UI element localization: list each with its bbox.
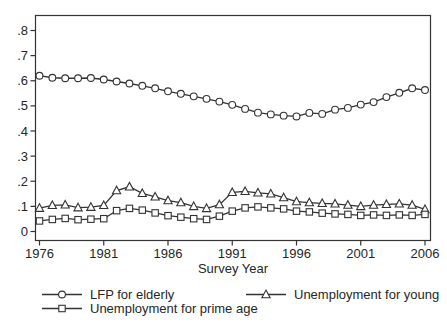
circle-marker: [345, 104, 352, 111]
square-marker: [113, 207, 119, 213]
square-marker: [358, 212, 364, 218]
circle-marker: [152, 85, 159, 92]
square-marker: [216, 213, 222, 219]
square-marker: [178, 214, 184, 220]
square-marker: [191, 215, 197, 221]
triangle-marker: [61, 200, 69, 208]
circle-marker: [36, 72, 43, 79]
square-marker: [268, 205, 274, 211]
square-marker: [332, 211, 338, 217]
legend-item: [42, 291, 82, 298]
legend: LFP for elderly Unemployment for young U…: [42, 287, 439, 316]
circle-marker: [216, 98, 223, 105]
legend-item: [42, 305, 82, 311]
y-tick-label: .3: [17, 149, 28, 164]
circle-marker: [203, 95, 210, 102]
circle-marker: [383, 94, 390, 101]
circle-marker: [332, 106, 339, 113]
square-marker: [62, 215, 68, 221]
circle-marker: [267, 111, 274, 118]
square-marker: [255, 204, 261, 210]
legend-label-unemployment-for-prime-age: Unemployment for prime age: [90, 301, 258, 316]
y-tick-label: .2: [17, 174, 28, 189]
y-tick-label: .6: [17, 73, 28, 88]
x-tick-label: 1991: [218, 246, 247, 261]
square-marker: [319, 210, 325, 216]
square-marker: [75, 216, 81, 222]
square-marker: [126, 205, 132, 211]
circle-marker: [88, 75, 95, 82]
circle-marker: [75, 75, 82, 82]
circle-marker: [113, 78, 120, 85]
y-tick-label: .5: [17, 98, 28, 113]
circle-marker: [100, 76, 107, 83]
circle-marker: [409, 85, 416, 92]
square-marker: [101, 215, 107, 221]
square-marker: [165, 212, 171, 218]
circle-marker: [126, 80, 133, 87]
square-marker: [229, 208, 235, 214]
legend-label-unemployment-for-young: Unemployment for young: [294, 287, 439, 302]
triangle-marker: [138, 189, 146, 197]
square-marker: [293, 208, 299, 214]
circle-marker: [357, 101, 364, 108]
x-tick-label: 2001: [346, 246, 375, 261]
circle-marker: [255, 109, 262, 116]
x-tick-label: 1981: [89, 246, 118, 261]
square-marker: [139, 207, 145, 213]
square-marker: [36, 218, 42, 224]
y-tick-label: .7: [17, 48, 28, 63]
circle-marker: [62, 75, 69, 82]
circle-marker: [177, 90, 184, 97]
triangle-marker: [125, 182, 133, 190]
y-tick-label: .4: [17, 124, 28, 139]
x-tick-label: 1976: [25, 246, 54, 261]
y-tick-label: .8: [17, 23, 28, 38]
y-tick-label: 0: [21, 224, 28, 239]
circle-marker: [370, 99, 377, 106]
square-marker: [280, 206, 286, 212]
x-axis: 1976198119861991199620012006: [25, 241, 439, 262]
square-marker: [203, 216, 209, 222]
circle-marker: [422, 87, 429, 94]
circle-marker: [280, 112, 287, 119]
square-marker: [49, 216, 55, 222]
circle-marker: [139, 82, 146, 89]
series-layer: [35, 72, 429, 224]
legend-square-marker: [59, 305, 65, 311]
x-axis-title: Survey Year: [198, 261, 269, 276]
circle-marker: [319, 111, 326, 118]
circle-marker: [293, 113, 300, 120]
y-axis: 0.1.2.3.4.5.6.7.8: [17, 23, 35, 239]
square-marker: [383, 212, 389, 218]
square-marker: [242, 205, 248, 211]
series-line-lfp-for-elderly: [40, 76, 426, 117]
square-marker: [152, 210, 158, 216]
square-marker: [345, 211, 351, 217]
chart-figure: 0.1.2.3.4.5.6.7.8 1976198119861991199620…: [0, 0, 447, 330]
circle-marker: [242, 105, 249, 112]
square-marker: [409, 212, 415, 218]
legend-label-lfp-for-elderly: LFP for elderly: [90, 287, 175, 302]
square-marker: [422, 211, 428, 217]
circle-marker: [396, 89, 403, 96]
square-marker: [88, 216, 94, 222]
legend-item: [246, 290, 286, 298]
circle-marker: [229, 101, 236, 108]
square-marker: [370, 212, 376, 218]
circle-marker: [306, 110, 313, 117]
series-lfp-for-elderly: [36, 72, 428, 120]
circle-marker: [165, 88, 172, 95]
triangle-marker: [241, 187, 249, 195]
square-marker: [396, 212, 402, 218]
chart-svg: 0.1.2.3.4.5.6.7.8 1976198119861991199620…: [0, 0, 447, 330]
x-tick-label: 2006: [411, 246, 440, 261]
circle-marker: [190, 93, 197, 100]
x-tick-label: 1996: [282, 246, 311, 261]
x-tick-label: 1986: [154, 246, 183, 261]
y-tick-label: .1: [17, 199, 28, 214]
circle-marker: [49, 74, 56, 81]
triangle-marker: [395, 199, 403, 207]
legend-circle-marker: [59, 291, 66, 298]
square-marker: [306, 209, 312, 215]
